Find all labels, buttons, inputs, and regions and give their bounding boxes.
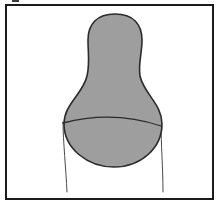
figure-canvas bbox=[0, 0, 221, 206]
corner-tick-mark bbox=[12, 0, 19, 2]
figure-container: Shaded bulb-shaped region with horizon a… bbox=[0, 0, 221, 206]
